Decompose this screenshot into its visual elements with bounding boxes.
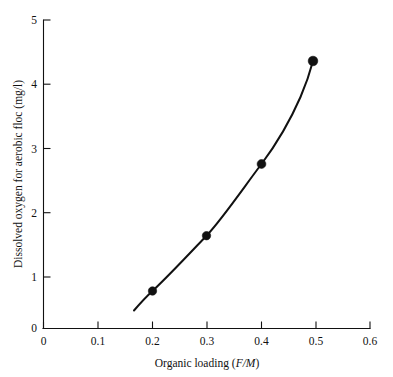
- y-tick-label-3: 3: [31, 143, 37, 155]
- x-axis-title: Organic loading (F/M): [155, 357, 260, 370]
- y-axis-title-text: Dissolved oxygen for aerobic floc (mg/l): [12, 80, 25, 268]
- x-tick-label-2: 0.2: [145, 335, 160, 347]
- y-tick-label-1: 1: [31, 271, 37, 283]
- data-curve-dissolved-oxygen: [134, 61, 313, 311]
- data-point-0.20: [148, 287, 156, 295]
- y-axis-ticks: [44, 20, 51, 277]
- x-axis-title-tail: ): [255, 357, 259, 370]
- x-tick-label-0: 0: [41, 335, 47, 347]
- x-axis-ticks: [44, 322, 371, 329]
- x-tick-label-4: 0.4: [254, 335, 269, 347]
- x-tick-label-1: 0.1: [91, 335, 106, 347]
- y-axis-title: Dissolved oxygen for aerobic floc (mg/l): [12, 80, 25, 268]
- data-markers: [148, 56, 318, 295]
- y-tick-label-2: 2: [31, 207, 37, 219]
- x-axis-title-italic: F/M: [235, 357, 257, 369]
- y-tick-label-4: 4: [31, 78, 37, 90]
- line-chart-canvas: 0 0.1 0.2 0.3 0.4 0.5 0.6 0 1 2 3 4 5 Or…: [0, 0, 393, 377]
- data-point-0.50: [308, 56, 318, 66]
- data-point-0.40: [257, 160, 266, 169]
- x-tick-label-5: 0.5: [309, 335, 324, 347]
- x-tick-label-6: 0.6: [363, 335, 378, 347]
- svg-text:Organic loading (F/M): Organic loading (F/M): [155, 357, 260, 370]
- y-tick-label-0: 0: [31, 322, 37, 334]
- data-point-0.30: [202, 232, 210, 240]
- x-axis-title-plain: Organic loading (: [155, 357, 236, 370]
- x-tick-label-3: 0.3: [200, 335, 215, 347]
- y-tick-label-5: 5: [31, 14, 37, 26]
- chart-figure: 0 0.1 0.2 0.3 0.4 0.5 0.6 0 1 2 3 4 5 Or…: [0, 0, 393, 377]
